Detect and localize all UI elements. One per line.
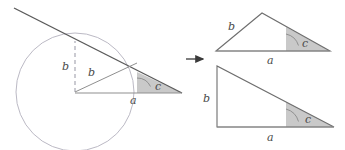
- label-c-angle: c: [155, 80, 161, 93]
- label-a-base: a: [130, 94, 137, 107]
- label-b-radius: b: [88, 66, 95, 79]
- label-b-vertical: b: [62, 60, 69, 73]
- top-right-triangle-group: b a c: [216, 13, 330, 67]
- figure-container: b b a c b a c: [0, 0, 345, 150]
- geometry-diagram: b b a c b a c: [0, 0, 345, 150]
- label-b-height: b: [203, 92, 210, 105]
- label-a-base: a: [267, 131, 274, 144]
- label-a-base: a: [267, 54, 274, 67]
- left-diagram-group: b b a c: [14, 8, 182, 150]
- radius-to-tangent-point: [75, 63, 137, 92]
- triangle-outline-bottom: [217, 66, 334, 127]
- label-c-angle: c: [305, 113, 311, 126]
- label-c-angle: c: [302, 37, 308, 50]
- label-b-side: b: [228, 20, 235, 33]
- bottom-right-triangle-group: b a c: [203, 66, 334, 144]
